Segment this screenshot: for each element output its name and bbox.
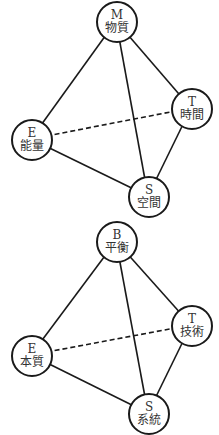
node-balance: B 平衡 (96, 221, 138, 263)
tetrahedron-diagram-balance: B 平衡 T 技術 E 本質 S 系統 (0, 217, 219, 434)
node-label: 時間 (180, 109, 204, 122)
node-label: 技術 (180, 326, 204, 339)
edge-e-t-hidden (31, 108, 191, 139)
node-matter: M 物質 (96, 1, 138, 43)
node-essence: E 本質 (11, 335, 53, 377)
node-space: S 空間 (128, 176, 170, 218)
node-system: S 系統 (128, 393, 170, 435)
node-time: T 時間 (171, 88, 213, 130)
node-label: 平衡 (105, 242, 129, 255)
edge-e-t-hidden (31, 325, 191, 355)
node-label: 空間 (137, 197, 161, 210)
node-technology: T 技術 (171, 305, 213, 347)
node-label: 物質 (105, 22, 129, 35)
edge-m-e (31, 21, 116, 139)
node-label: 能量 (20, 140, 44, 153)
node-label: 本質 (20, 356, 44, 369)
edge-b-s (116, 241, 148, 413)
edge-m-s (116, 21, 148, 196)
node-label: 系統 (137, 414, 161, 427)
node-energy: E 能量 (11, 119, 53, 161)
tetrahedron-diagram-matter: M 物質 T 時間 E 能量 S 空間 (0, 0, 219, 217)
